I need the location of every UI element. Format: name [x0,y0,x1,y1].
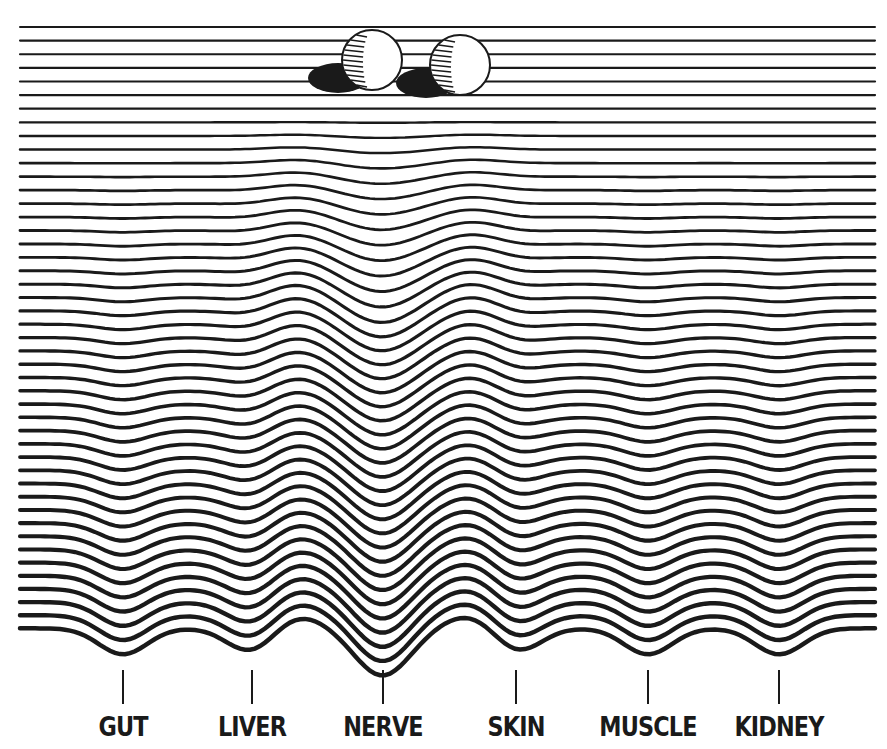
valley-tick-muscle [647,670,649,704]
epigenetic-landscape [0,0,887,749]
contour-line [20,185,875,199]
contour-line [20,160,875,169]
valley-tick-gut [122,670,124,704]
contour-line [20,172,875,183]
valley-label-muscle: MUSCLE [599,712,696,742]
contour-line [20,235,875,261]
valley-label-nerve: NERVE [343,712,422,742]
landscape-contour-lines [20,27,875,675]
valley-label-kidney: KIDNEY [734,712,823,742]
valley-label-skin: SKIN [487,712,544,742]
valley-tick-skin [515,670,517,704]
contour-line [20,147,875,153]
contour-line [20,378,875,420]
valley-tick-nerve [382,670,384,704]
contour-line [20,135,875,138]
valley-label-liver: LIVER [218,712,286,742]
contour-line [20,405,875,449]
contour-line [20,197,875,214]
valley-tick-kidney [778,670,780,704]
contour-line [20,122,875,123]
contour-line [20,392,875,435]
valley-tick-liver [251,670,253,704]
contour-line [20,222,875,245]
valley-label-gut: GUT [98,712,147,742]
